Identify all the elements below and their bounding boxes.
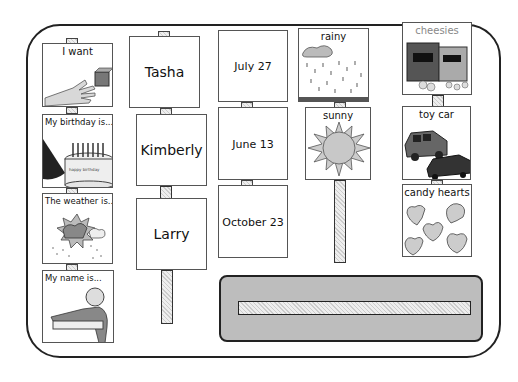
card-label: I want — [43, 46, 112, 57]
snack-bags-icon — [403, 37, 472, 95]
date-text: June 13 — [219, 137, 287, 150]
card-label: cheesies — [403, 25, 471, 36]
card-label: toy car — [403, 109, 470, 120]
sentence-strip-velcro[interactable] — [238, 301, 471, 315]
date-card-october-23[interactable]: October 23 — [218, 185, 288, 258]
velcro-tab — [66, 107, 78, 114]
card-label: rainy — [299, 31, 368, 42]
sentence-strip[interactable] — [219, 275, 483, 342]
name-card-tasha[interactable]: Tasha — [129, 36, 200, 108]
sun-icon — [306, 120, 371, 180]
velcro-strip — [334, 180, 346, 263]
card-label: My name is... — [45, 273, 113, 283]
name-card-kimberly[interactable]: Kimberly — [136, 114, 207, 186]
name-text: Larry — [137, 226, 206, 242]
velcro-strip — [161, 270, 173, 324]
name-text: Kimberly — [137, 142, 206, 158]
item-card-cheesies[interactable]: cheesies — [402, 22, 472, 95]
date-text: October 23 — [219, 215, 287, 228]
card-my-name-is[interactable]: My name is... — [42, 270, 114, 343]
name-text: Tasha — [130, 64, 199, 80]
candy-hearts-icon — [403, 199, 472, 257]
card-label: My birthday is... — [45, 117, 112, 127]
birthday-cake-icon — [43, 129, 113, 188]
weather-card-sunny[interactable]: sunny — [305, 107, 371, 180]
item-card-candy-hearts[interactable]: candy hearts — [402, 184, 472, 257]
card-label: The weather is... — [45, 196, 112, 206]
card-my-birthday-is[interactable]: My birthday is... happy birthday — [42, 114, 113, 188]
weather-storm-icon — [43, 208, 113, 264]
card-label: candy hearts — [403, 187, 471, 198]
weather-card-rainy[interactable]: rainy — [298, 28, 369, 102]
toy-cars-icon — [403, 121, 471, 179]
date-card-july-27[interactable]: July 27 — [218, 30, 288, 102]
rain-cloud-icon — [299, 43, 369, 101]
hand-reaching-block-icon — [43, 58, 113, 107]
cake-text: happy birthday — [69, 167, 99, 172]
date-text: July 27 — [219, 60, 287, 73]
date-card-june-13[interactable]: June 13 — [218, 107, 288, 180]
name-card-larry[interactable]: Larry — [136, 198, 207, 270]
card-i-want[interactable]: I want — [42, 43, 113, 107]
item-card-toy-car[interactable]: toy car — [402, 106, 471, 180]
person-pointing-icon — [43, 283, 114, 343]
card-the-weather-is[interactable]: The weather is... — [42, 193, 113, 264]
